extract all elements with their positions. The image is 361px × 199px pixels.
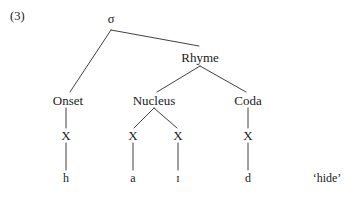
node-x-slot-4: X	[243, 129, 252, 142]
segment-h: h	[63, 172, 69, 184]
branch-nucleus-x3	[154, 108, 177, 128]
segment-a: a	[130, 172, 135, 184]
node-sigma: σ	[108, 13, 115, 26]
branch-rhyme-nucleus	[157, 66, 200, 92]
node-x-slot-1: X	[61, 129, 70, 142]
branch-sigma-onset	[70, 30, 111, 92]
branch-sigma-rhyme	[111, 30, 199, 46]
gloss-hide: ‘hide’	[313, 172, 342, 184]
example-number: (3)	[10, 10, 25, 23]
node-x-slot-3: X	[173, 129, 182, 142]
node-rhyme: Rhyme	[181, 51, 219, 64]
branch-nucleus-x2	[134, 108, 154, 128]
branch-rhyme-coda	[200, 66, 246, 92]
syllable-tree-figure: (3) σ Rhyme	[0, 0, 361, 199]
node-coda: Coda	[234, 94, 261, 107]
segment-small-capital-i: ɪ	[176, 172, 179, 184]
node-x-slot-2: X	[128, 129, 137, 142]
node-onset: Onset	[53, 94, 83, 107]
segment-d: d	[245, 172, 251, 184]
node-nucleus: Nucleus	[133, 94, 176, 107]
